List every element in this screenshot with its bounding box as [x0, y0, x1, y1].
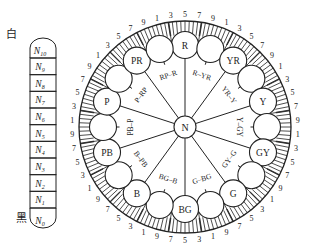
hatch-line: [83, 98, 94, 101]
hue-scale-number: 9: [96, 195, 100, 204]
hue-scale-number: 7: [72, 144, 76, 153]
hatch-line: [203, 23, 206, 37]
hue-scale-number: 7: [169, 235, 173, 244]
hatch-line: [176, 220, 177, 233]
intermediate-hue-label: Y–GY: [235, 117, 244, 138]
hatch-line: [276, 153, 287, 156]
hatch-line: [211, 25, 214, 36]
black-label: 黑: [16, 212, 27, 225]
hue-scale-number: 1: [96, 51, 100, 60]
main-hue-label: PR: [131, 56, 143, 66]
hatch-line: [203, 217, 206, 231]
hatch-line: [221, 29, 226, 41]
hue-scale-number: 7: [81, 75, 85, 84]
hatch-line: [81, 107, 95, 110]
hue-scale-number: 1: [296, 130, 300, 139]
intermediate-hue-circle: [90, 114, 117, 141]
hatch-line: [83, 153, 94, 156]
value-level-label: N0: [34, 216, 44, 227]
hue-scale-number: 5: [290, 158, 294, 167]
hatch-line: [144, 29, 149, 41]
hatch-line: [211, 218, 214, 229]
hue-scale-number: 9: [88, 62, 92, 71]
hatch-line: [276, 138, 290, 140]
hue-scale-number: 5: [290, 88, 294, 97]
value-level-label: N8: [34, 79, 44, 90]
hue-scale-number: 9: [278, 184, 282, 193]
value-level-label: N3: [34, 162, 44, 173]
hatch-line: [248, 194, 258, 204]
hatch-line: [79, 134, 92, 135]
value-level-label: N7: [34, 95, 45, 106]
hatch-line: [218, 216, 222, 227]
main-hue-label: R: [182, 41, 189, 51]
hatch-line: [207, 24, 210, 36]
hatch-line: [81, 145, 95, 148]
intermediate-tick: [205, 62, 206, 65]
hatch-line: [276, 114, 290, 116]
main-hue-label: G: [230, 189, 237, 199]
hatch-line: [275, 107, 289, 110]
hatch-line: [248, 49, 258, 59]
hatch-line: [172, 218, 174, 232]
hatch-line: [214, 26, 217, 37]
hatch-line: [110, 52, 120, 62]
intermediate-tick: [238, 87, 240, 89]
hue-scale-number: 9: [211, 14, 215, 23]
value-level-label: N9: [34, 62, 44, 73]
hue-scale-number: 5: [249, 32, 253, 41]
hue-scale-number: 1: [270, 195, 274, 204]
value-level-label: N1: [34, 195, 44, 206]
hue-scale-number: 3: [81, 171, 85, 180]
hatch-line: [278, 118, 291, 119]
main-hue-label: B: [134, 189, 140, 199]
hatch-line: [252, 55, 262, 65]
hatch-line: [271, 86, 283, 91]
hatch-line: [82, 149, 94, 152]
hue-scale-number: 3: [237, 24, 241, 33]
hatch-line: [276, 98, 287, 101]
main-hue-label: P: [104, 97, 109, 107]
hue-scale-number: 3: [169, 11, 173, 20]
intermediate-hue-label: YR–Y: [220, 84, 239, 106]
hue-scale-number: 9: [296, 116, 300, 125]
hue-scale-number: 3: [72, 102, 76, 111]
hue-wheel: RR–YRYRYR–YYY–GYGYGY–GGG–BGBGBG–BBB–PBPB…: [70, 10, 300, 245]
hatch-line: [165, 23, 168, 37]
hatch-line: [107, 55, 117, 65]
hue-scale-number: 1: [70, 116, 74, 125]
hatch-line: [144, 213, 149, 225]
main-hue-label: BG: [178, 205, 191, 215]
hue-scale-number: 3: [197, 235, 201, 244]
hue-scale-number: 7: [237, 222, 241, 231]
intermediate-hue-label: RP–R: [158, 68, 178, 82]
hue-scale-number: 1: [141, 228, 145, 237]
intermediate-tick: [164, 189, 165, 192]
hatch-line: [113, 194, 123, 204]
main-hue-label: PB: [101, 148, 113, 158]
main-hue-label: Y: [260, 97, 267, 107]
hue-scale-number: 3: [106, 41, 110, 50]
hatch-line: [278, 134, 291, 135]
intermediate-hue-label: BG–B: [158, 172, 179, 186]
hatch-line: [172, 22, 174, 36]
intermediate-hue-circle: [197, 191, 224, 218]
hue-scale-number: 9: [155, 232, 159, 241]
hatch-line: [192, 220, 193, 233]
hatch-line: [214, 217, 217, 228]
value-level-label: N5: [34, 129, 44, 140]
main-hue-label: YR: [227, 56, 241, 66]
hatch-line: [148, 216, 152, 227]
value-level-label: N4: [34, 145, 44, 156]
hatch-line: [80, 138, 94, 140]
hatch-line: [274, 90, 285, 94]
hatch-line: [160, 218, 163, 230]
diagram-canvas: 白 黑 N10N9N8N7N6N5N4N3N2N1N0 RR–YRYRYR–YY…: [0, 0, 312, 252]
hue-scale-number: 3: [294, 144, 298, 153]
neutral-center-label: N: [181, 122, 188, 133]
hue-scale-number: 1: [278, 62, 282, 71]
hatch-line: [87, 163, 99, 168]
hatch-line: [275, 156, 286, 159]
hue-scale-number: 7: [260, 41, 264, 50]
hatch-line: [274, 160, 285, 164]
